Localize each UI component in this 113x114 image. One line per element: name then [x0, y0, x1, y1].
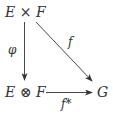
- node-e-times-f-left: E: [5, 4, 15, 20]
- f-label: f: [68, 36, 72, 48]
- phi-label: φ: [8, 44, 16, 56]
- node-e-tensor-f-left: E: [5, 84, 15, 100]
- times-operator: ×: [20, 4, 32, 20]
- tensor-operator: ⊗: [20, 84, 32, 100]
- node-g: G: [97, 85, 108, 99]
- node-e-times-f-right: F: [36, 4, 46, 20]
- node-e-times-f: E × F: [5, 5, 46, 19]
- diagonal-arrow: [36, 22, 92, 81]
- f-star-label: f*: [61, 98, 71, 110]
- node-e-tensor-f: E ⊗ F: [5, 85, 46, 99]
- node-e-tensor-f-right: F: [36, 84, 46, 100]
